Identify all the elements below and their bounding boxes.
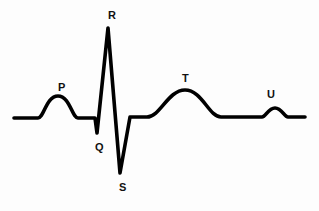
wave-label-p: P bbox=[58, 82, 66, 93]
wave-label-q: Q bbox=[95, 142, 104, 153]
wave-label-u: U bbox=[267, 89, 275, 100]
ecg-trace-svg bbox=[0, 0, 319, 211]
wave-label-s: S bbox=[119, 182, 127, 193]
wave-label-t: T bbox=[182, 73, 189, 84]
ecg-waveform-diagram: P Q R S T U bbox=[0, 0, 319, 211]
wave-label-r: R bbox=[108, 10, 116, 21]
